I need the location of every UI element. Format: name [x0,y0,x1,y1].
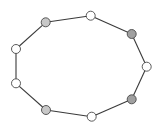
graph-edge-n6-n7 [46,110,92,117]
graph-node-n5 [127,95,136,104]
graph-nodes [12,11,152,121]
graph-edge-n4-n5 [132,67,147,100]
graph-edges [16,16,147,117]
graph-node-n2 [86,11,95,20]
graph-node-n4 [142,62,151,71]
graph-edge-n9-n1 [16,22,46,49]
graph-edge-n7-n8 [16,83,46,110]
graph-edge-n1-n2 [46,16,91,23]
graph-node-n1 [41,18,50,27]
graph-node-n6 [87,112,96,121]
cycle-graph-diagram [0,0,155,128]
graph-node-n7 [42,106,51,115]
graph-edge-n5-n6 [92,99,132,116]
graph-edge-n2-n3 [91,16,132,34]
graph-node-n9 [12,45,21,54]
graph-node-n3 [127,30,136,39]
graph-node-n8 [12,79,21,88]
graph-edge-n3-n4 [132,34,147,67]
